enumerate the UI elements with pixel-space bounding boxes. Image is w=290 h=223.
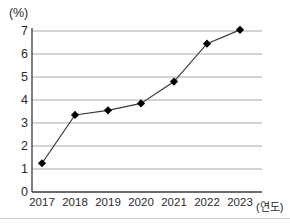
data-point-marker [236,26,244,34]
y-tick-label: 2 [8,139,28,153]
x-tick-label: 2021 [161,196,187,208]
data-point-marker [104,106,112,114]
plot-area [0,0,290,223]
data-point-marker [38,159,46,167]
y-tick-label: 4 [8,93,28,107]
y-tick-label: 6 [8,47,28,61]
y-tick-label: 3 [8,116,28,130]
x-tick-label: 2023 [227,196,253,208]
series-line [42,30,240,163]
x-tick-label: 2019 [95,196,121,208]
x-tick-label: 2018 [62,196,88,208]
y-tick-label: 0 [8,185,28,199]
x-axis-title: (연도) [256,198,283,214]
x-tick-label: 2017 [29,196,55,208]
x-tick-label: 2022 [194,196,220,208]
y-tick-label: 5 [8,70,28,84]
data-point-marker [137,99,145,107]
x-tick-label: 2020 [128,196,154,208]
axis-lines [32,28,262,192]
y-tick-label: 7 [8,24,28,38]
bottom-divider [0,218,290,219]
y-tick-label: 1 [8,162,28,176]
data-point-marker [71,111,79,119]
line-chart: (%) 01234567 201720182019202020212022202… [0,0,290,223]
